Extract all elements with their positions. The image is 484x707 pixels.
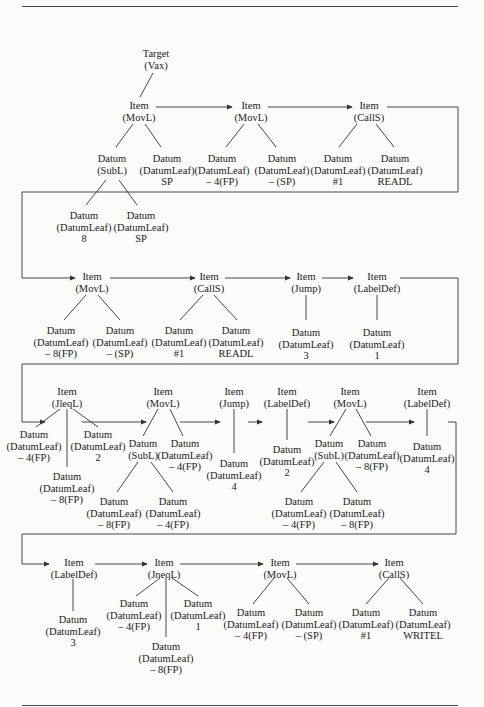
node-line: Datum: [128, 438, 158, 450]
node-line: Datum: [396, 607, 451, 619]
item-node: Item(JleqL): [52, 386, 82, 409]
root-target-node: Target (Vax): [143, 48, 169, 71]
datum-node: Datum(DatumLeaf)SP: [140, 153, 195, 188]
node-line: (DatumLeaf): [345, 450, 400, 462]
node-line: (DatumLeaf): [207, 470, 262, 482]
node-line: – 4(FP): [158, 461, 213, 473]
node-line: Datum: [158, 438, 213, 450]
node-line: (DatumLeaf): [107, 610, 162, 622]
node-line: WRITEL: [396, 630, 451, 642]
node-line: 4: [400, 464, 455, 476]
node-line: SP: [114, 233, 169, 245]
node-line: Datum: [368, 153, 423, 165]
node-line: (Jump): [291, 283, 321, 295]
node-line: Datum: [152, 325, 207, 337]
item-node: Item(MovL): [75, 271, 108, 294]
datum-node: Datum(DatumLeaf)SP: [114, 210, 169, 245]
node-line: (LabelDef): [354, 283, 401, 295]
node-line: (DatumLeaf): [158, 450, 213, 462]
node-line: (DatumLeaf): [146, 508, 201, 520]
node-line: (DatumLeaf): [350, 339, 405, 351]
datum-node: Datum(DatumLeaf)4: [207, 458, 262, 493]
node-line: Item: [354, 271, 401, 283]
node-line: (DatumLeaf): [224, 619, 279, 631]
datum-node: Datum(DatumLeaf)– 4(FP): [195, 153, 250, 188]
datum-node: Datum(DatumLeaf)– 4(FP): [272, 496, 327, 531]
datum-node: Datum(DatumLeaf)– 4(FP): [107, 598, 162, 633]
item-node: Item(CallS): [379, 557, 409, 580]
node-line: (DatumLeaf): [34, 337, 89, 349]
datum-node: Datum(DatumLeaf)2: [260, 444, 315, 479]
node-line: (DatumLeaf): [7, 441, 62, 453]
node-line: (DatumLeaf): [282, 619, 337, 631]
datum-node: Datum(DatumLeaf)– 8(FP): [345, 438, 400, 473]
node-line: READL: [368, 176, 423, 188]
node-line: 3: [279, 350, 334, 362]
node-line: (DatumLeaf): [255, 165, 310, 177]
node-line: Datum: [34, 325, 89, 337]
node-line: (DatumLeaf): [396, 619, 451, 631]
node-line: (SubL): [128, 450, 158, 462]
node-line: Item: [333, 386, 366, 398]
node-line: – 4(FP): [224, 630, 279, 642]
node-line: – 8(FP): [139, 664, 194, 676]
node-line: (DatumLeaf): [339, 619, 394, 631]
node-line: Datum: [255, 153, 310, 165]
node-line: – 4(FP): [272, 519, 327, 531]
item-node: Item(CallS): [354, 100, 384, 123]
node-line: Datum: [400, 441, 455, 453]
item-node: Item(MovL): [122, 100, 155, 123]
node-line: Datum: [140, 153, 195, 165]
item-node: Item(MovL): [146, 386, 179, 409]
datum-node: Datum(DatumLeaf)– (SP): [255, 153, 310, 188]
node-line: Item: [146, 386, 179, 398]
datum-node: Datum(DatumLeaf)– 8(FP): [87, 496, 142, 531]
node-line: Datum: [71, 429, 126, 441]
node-line: Item: [379, 557, 409, 569]
node-line: – 4(FP): [107, 621, 162, 633]
item-node: Item(Jump): [219, 386, 249, 409]
datum-node: Datum(DatumLeaf)3: [279, 327, 334, 362]
item-node: Item(JneqL): [148, 557, 181, 580]
datum-node: Datum(DatumLeaf)– 8(FP): [34, 325, 89, 360]
node-line: (DatumLeaf): [46, 626, 101, 638]
node-line: (MovL): [234, 112, 267, 124]
node-line: (MovL): [146, 398, 179, 410]
node-line: – 4(FP): [195, 176, 250, 188]
node-line: Datum: [57, 210, 112, 222]
node-line: (SubL): [314, 450, 344, 462]
node-line: (DatumLeaf): [114, 222, 169, 234]
node-line: – (SP): [282, 630, 337, 642]
node-line: (JleqL): [52, 398, 82, 410]
node-line: Datum: [114, 210, 169, 222]
node-line: (DatumLeaf): [140, 165, 195, 177]
node-line: Datum: [260, 444, 315, 456]
node-line: (CallS): [194, 283, 224, 295]
node-line: – 8(FP): [330, 519, 385, 531]
node-line: Item: [52, 386, 82, 398]
node-line: Item: [263, 557, 296, 569]
item-node: Item(LabelDef): [51, 557, 98, 580]
node-line: Datum: [40, 471, 95, 483]
node-line: Item: [122, 100, 155, 112]
datum-node: Datum(DatumLeaf)– (SP): [93, 325, 148, 360]
node-line: Item: [404, 386, 451, 398]
node-line: #1: [152, 348, 207, 360]
datum-node: Datum(DatumLeaf)1: [171, 598, 226, 633]
datum-node: Datum(DatumLeaf)#1: [152, 325, 207, 360]
node-line: #1: [311, 176, 366, 188]
node-line: – 4(FP): [7, 452, 62, 464]
node-line: (DatumLeaf): [152, 337, 207, 349]
node-line: Datum: [107, 598, 162, 610]
node-line: (DatumLeaf): [139, 653, 194, 665]
node-line: (DatumLeaf): [57, 222, 112, 234]
item-node: Item(MovL): [333, 386, 366, 409]
node-line: (LabelDef): [264, 398, 311, 410]
node-line: (DatumLeaf): [40, 483, 95, 495]
node-line: – 8(FP): [34, 348, 89, 360]
node-line: Datum: [339, 607, 394, 619]
datum-node: Datum(DatumLeaf)READL: [209, 325, 264, 360]
datum-node: Datum(DatumLeaf)8: [57, 210, 112, 245]
datum-node: Datum(DatumLeaf)– 4(FP): [224, 607, 279, 642]
datum-node: Datum(DatumLeaf)#1: [339, 607, 394, 642]
